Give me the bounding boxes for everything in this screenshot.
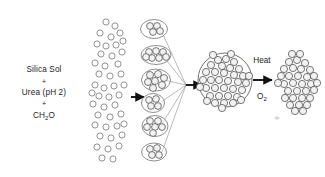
primary-cluster-6 [142, 143, 167, 161]
reagent-line-silica-sol: Silica Sol [26, 65, 61, 74]
reagent-line-urea: Urea (pH 2) [22, 88, 67, 97]
reagent-plus-1: + [42, 78, 46, 85]
diagram-canvas: Silica Sol + Urea (pH 2) + CH2O [0, 0, 325, 177]
primary-cluster-3 [142, 69, 171, 92]
primary-cluster-5 [142, 116, 168, 137]
primary-cluster-2 [141, 46, 171, 65]
scan-smudge [274, 116, 279, 119]
formaldehyde-main: CH [33, 111, 45, 120]
reagent-plus-2: + [42, 100, 46, 107]
process-diagram: Silica Sol + Urea (pH 2) + CH2O [0, 0, 325, 177]
primary-cluster-1 [141, 20, 168, 39]
heat-label: Heat [253, 56, 271, 65]
primary-cluster-4 [142, 94, 165, 113]
formaldehyde-tail: O [49, 111, 56, 120]
reagent-line-formaldehyde: CH2O [33, 111, 55, 121]
